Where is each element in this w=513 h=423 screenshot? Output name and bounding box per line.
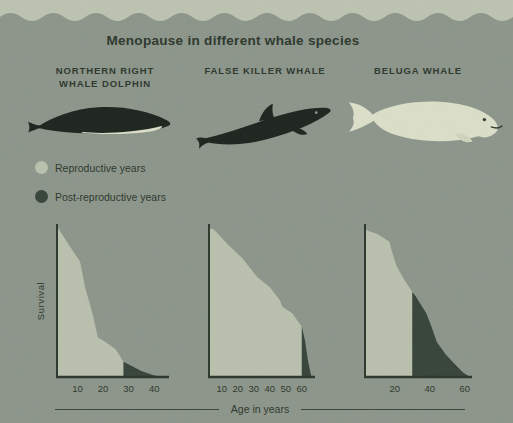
x-axis-label-row: Age in years — [55, 401, 465, 417]
x-tick-label: 50 — [281, 383, 292, 394]
x-tick-label: 40 — [149, 383, 160, 394]
reproductive-swatch-icon — [35, 161, 48, 174]
survival-chart-northern-right-whale-dolphin: 10203040 — [55, 223, 175, 401]
species-label-northern-right-whale-dolphin: NORTHERN RIGHT WHALE DOLPHIN — [25, 64, 185, 91]
legend-label: Reproductive years — [55, 162, 145, 174]
survival-chart-false-killer-whale: 102030405060 — [207, 223, 321, 401]
legend-label: Post-reproductive years — [55, 191, 166, 203]
x-axis-label-age-in-years: Age in years — [231, 403, 289, 415]
reproductive-area — [365, 230, 412, 377]
infographic-canvas: Menopause in different whale species NOR… — [0, 0, 513, 423]
survival-chart-beluga-whale: 204060 — [363, 223, 478, 401]
x-tick-label: 30 — [249, 383, 260, 394]
legend-item-post-reproductive: Post-reproductive years — [35, 190, 166, 203]
post-reproductive-swatch-icon — [35, 190, 48, 203]
divider-line-left — [55, 409, 219, 410]
x-tick-label: 40 — [265, 383, 276, 394]
species-label-false-killer-whale: FALSE KILLER WHALE — [195, 64, 335, 77]
species-label-line: WHALE DOLPHIN — [25, 77, 185, 90]
x-tick-label: 40 — [425, 383, 436, 394]
x-tick-label: 20 — [98, 383, 109, 394]
survival-chart-svg: 204060 — [363, 223, 478, 397]
page-title: Menopause in different whale species — [0, 33, 466, 48]
x-tick-label: 20 — [390, 383, 401, 394]
legend-item-reproductive: Reproductive years — [35, 161, 145, 174]
reproductive-area — [209, 228, 302, 377]
northern-right-whale-dolphin-icon — [28, 98, 180, 148]
x-tick-label: 10 — [217, 383, 228, 394]
species-label-line: NORTHERN RIGHT — [25, 64, 185, 77]
scalloped-top-border — [0, 0, 513, 26]
post-reproductive-area — [124, 362, 168, 377]
post-reproductive-area — [412, 292, 470, 377]
x-tick-label: 10 — [72, 383, 83, 394]
y-axis-label-survival: Survival — [35, 282, 46, 321]
x-tick-label: 60 — [297, 383, 308, 394]
x-tick-label: 30 — [123, 383, 134, 394]
x-tick-label: 60 — [460, 383, 471, 394]
survival-chart-svg: 10203040 — [55, 223, 175, 397]
divider-line-right — [301, 409, 465, 410]
survival-chart-svg: 102030405060 — [207, 223, 321, 397]
species-label-beluga-whale: BELUGA WHALE — [348, 64, 488, 77]
beluga-whale-icon — [340, 88, 505, 158]
species-label-line: FALSE KILLER WHALE — [195, 64, 335, 77]
false-killer-whale-icon — [196, 92, 334, 154]
x-tick-label: 20 — [233, 383, 244, 394]
species-label-line: BELUGA WHALE — [348, 64, 488, 77]
reproductive-area — [57, 227, 124, 378]
post-reproductive-area — [302, 327, 312, 377]
